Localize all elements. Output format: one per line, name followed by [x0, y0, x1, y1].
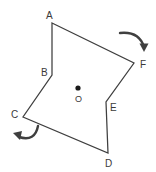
vertex-label-e: E [110, 103, 117, 113]
vertex-label-c: C [11, 110, 18, 120]
geometry-figure: A F E D C B O [0, 0, 156, 172]
vertex-label-b: B [41, 68, 48, 78]
vertex-label-d: D [105, 159, 112, 169]
vertex-label-a: A [46, 11, 53, 21]
rotation-arrow-bottom-left-curve [19, 126, 38, 138]
rotation-arrow-bottom-left [13, 126, 38, 140]
figure-canvas [0, 0, 156, 172]
rotation-arrow-top-right [120, 33, 149, 52]
vertex-label-f: F [140, 60, 146, 70]
rotation-arrow-top-right-head [140, 44, 149, 53]
center-point-dot [75, 85, 80, 90]
center-point-label: O [75, 95, 82, 104]
